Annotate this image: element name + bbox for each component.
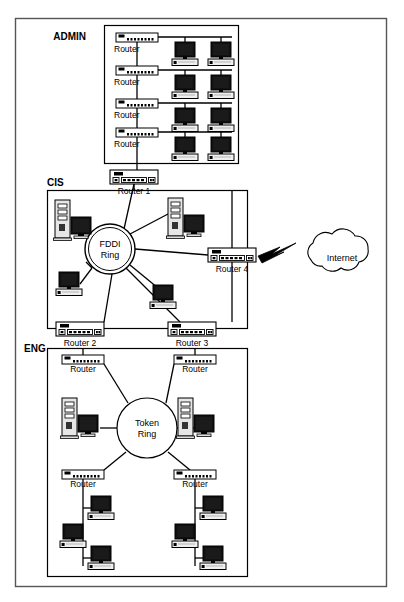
workstation-admin-8	[208, 137, 234, 161]
workstation-eng-5	[172, 524, 198, 548]
workstation-cis-right	[150, 285, 176, 309]
router-admin-2[interactable]: Router	[114, 66, 158, 87]
server-eng-right	[177, 398, 215, 439]
router-eng-bottom-right-label: Router	[182, 479, 208, 489]
ring-fddi-line2: Ring	[101, 250, 120, 260]
router-1[interactable]: Router 1	[110, 170, 158, 196]
workstation-eng-6	[200, 546, 226, 570]
router-admin-4[interactable]: Router	[114, 128, 158, 149]
zone-label-eng: ENG	[24, 343, 46, 354]
zone-label-admin: ADMIN	[53, 31, 86, 42]
router-1-label: Router 1	[118, 186, 151, 196]
workstation-admin-1	[172, 42, 198, 66]
router-eng-top-right[interactable]: Router	[174, 355, 216, 374]
internet-label: Internet	[327, 253, 358, 263]
workstation-admin-2	[208, 42, 234, 66]
ring-token-line1: Token	[135, 418, 159, 428]
server-eng-left	[61, 398, 99, 439]
router-admin-2-label: Router	[114, 77, 140, 87]
ring-fddi: FDDI Ring	[85, 224, 135, 274]
outer-border	[16, 19, 387, 587]
router-2[interactable]: Router 2	[56, 322, 104, 348]
router-4[interactable]: Router 4	[208, 248, 256, 274]
router-3-label: Router 3	[176, 338, 209, 348]
router-eng-bottom-left-label: Router	[70, 479, 96, 489]
ring-token-line2: Ring	[138, 429, 157, 439]
workstation-admin-6	[208, 108, 234, 132]
router-eng-top-right-label: Router	[182, 364, 208, 374]
router-admin-3-label: Router	[114, 110, 140, 120]
workstation-admin-5	[172, 108, 198, 132]
server-cis-left	[54, 200, 92, 241]
router-admin-4-label: Router	[114, 139, 140, 149]
workstation-cis-left	[56, 272, 82, 296]
workstation-eng-3	[88, 546, 114, 570]
router-admin-3[interactable]: Router	[114, 99, 158, 120]
server-cis-right	[167, 198, 205, 239]
router-admin-1-label: Router	[114, 44, 140, 54]
router-4-label: Router 4	[216, 264, 249, 274]
workstation-admin-4	[208, 75, 234, 99]
router-2-label: Router 2	[64, 338, 97, 348]
diagram-svg: ADMIN CIS ENG Inte	[0, 0, 404, 602]
router-eng-bottom-right[interactable]: Router	[174, 470, 216, 489]
wan-lightning-icon	[258, 243, 296, 263]
zone-label-cis: CIS	[47, 177, 64, 188]
internet-cloud: Internet	[308, 229, 368, 271]
network-diagram-canvas: ADMIN CIS ENG Inte	[0, 0, 404, 602]
workstation-eng-1	[88, 496, 114, 520]
router-eng-top-left-label: Router	[70, 364, 96, 374]
workstation-admin-7	[172, 137, 198, 161]
workstation-eng-4	[200, 496, 226, 520]
router-eng-bottom-left[interactable]: Router	[62, 470, 104, 489]
workstation-eng-2	[60, 524, 86, 548]
workstation-admin-3	[172, 75, 198, 99]
router-3[interactable]: Router 3	[168, 322, 216, 348]
ring-fddi-line1: FDDI	[100, 239, 121, 249]
router-admin-1[interactable]: Router	[114, 33, 158, 54]
ring-token: Token Ring	[117, 398, 177, 458]
router-eng-top-left[interactable]: Router	[62, 355, 104, 374]
